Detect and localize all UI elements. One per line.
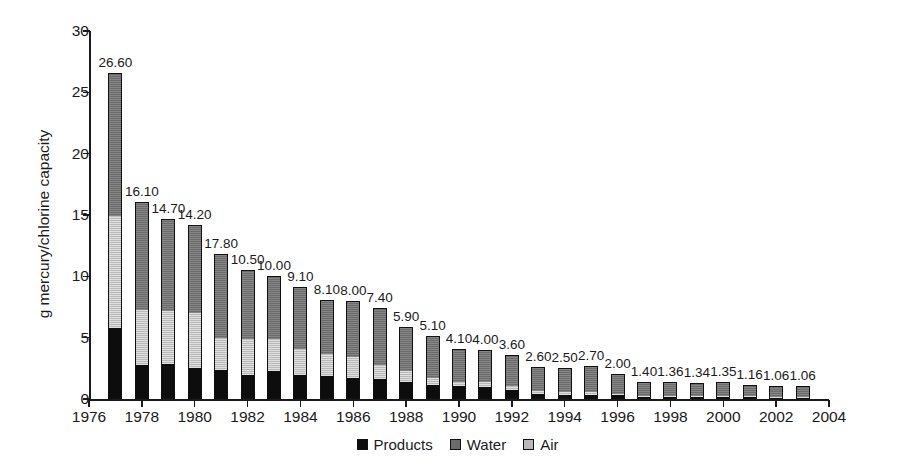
stacked-bar bbox=[531, 31, 545, 399]
bar-segment-air bbox=[531, 391, 545, 394]
bar-value-label: 2.70 bbox=[578, 349, 604, 363]
legend-swatch-products-icon bbox=[357, 439, 368, 450]
x-tick-label: 1978 bbox=[125, 409, 159, 425]
x-tick-mark bbox=[617, 400, 619, 407]
bar-value-label: 5.10 bbox=[419, 319, 445, 333]
y-axis-title: g mercury/chlorine capacity bbox=[35, 74, 53, 374]
bar-value-label: 1.40 bbox=[631, 365, 657, 379]
stacked-bar bbox=[293, 31, 307, 399]
legend-item-products: Products bbox=[357, 436, 433, 453]
bar-segment-products bbox=[426, 385, 440, 399]
bar-segment-products bbox=[346, 378, 360, 399]
bar-segment-air bbox=[373, 365, 387, 379]
x-tick-mark bbox=[511, 400, 513, 407]
legend-swatch-water-icon bbox=[450, 439, 461, 450]
x-tick-mark bbox=[88, 400, 90, 407]
bar-segment-air bbox=[558, 392, 572, 394]
stacked-bar bbox=[399, 31, 413, 399]
bar-segment-water bbox=[399, 327, 413, 371]
bar-value-label: 2.00 bbox=[604, 357, 630, 371]
bar-value-label: 17.80 bbox=[204, 237, 238, 251]
bar-segment-air bbox=[796, 397, 810, 398]
bar-segment-air bbox=[267, 339, 281, 372]
bar-segment-products bbox=[584, 395, 598, 399]
bar-segment-water bbox=[293, 287, 307, 348]
y-tick-label: 5 bbox=[53, 330, 89, 346]
bar-value-label: 26.60 bbox=[99, 56, 133, 70]
x-tick-label: 1994 bbox=[547, 409, 581, 425]
x-tick-mark bbox=[300, 400, 302, 407]
bar-segment-water bbox=[769, 386, 783, 397]
bar-segment-water bbox=[188, 225, 202, 313]
bar-segment-water bbox=[505, 355, 519, 386]
bar-segment-air bbox=[663, 396, 677, 397]
bar-value-label: 1.16 bbox=[737, 368, 763, 382]
x-tick-label: 1980 bbox=[177, 409, 211, 425]
bar-segment-air bbox=[399, 371, 413, 382]
bar-segment-water bbox=[108, 73, 122, 217]
bar-segment-water bbox=[267, 276, 281, 339]
chart-legend: Products Water Air bbox=[0, 436, 915, 453]
legend-item-air: Air bbox=[523, 436, 558, 453]
bar-value-label: 1.36 bbox=[657, 365, 683, 379]
bar-value-label: 2.60 bbox=[525, 350, 551, 364]
stacked-bar bbox=[743, 31, 757, 399]
bar-value-label: 1.35 bbox=[710, 365, 736, 379]
y-tick-label: 10 bbox=[53, 268, 89, 284]
bar-segment-products bbox=[241, 375, 255, 399]
bar-segment-air bbox=[637, 396, 651, 397]
bar-segment-water bbox=[558, 368, 572, 392]
stacked-bar bbox=[690, 31, 704, 399]
bar-segment-water bbox=[611, 374, 625, 394]
bar-segment-water bbox=[161, 219, 175, 311]
bar-segment-products bbox=[478, 387, 492, 399]
bar-value-label: 3.60 bbox=[499, 338, 525, 352]
stacked-bar bbox=[346, 31, 360, 399]
stacked-bar bbox=[558, 31, 572, 399]
y-tick-label: 30 bbox=[53, 23, 89, 39]
x-tick-mark bbox=[353, 400, 355, 407]
x-tick-mark bbox=[458, 400, 460, 407]
stacked-bar bbox=[267, 31, 281, 399]
stacked-bar bbox=[241, 31, 255, 399]
bar-segment-products bbox=[611, 395, 625, 399]
bar-segment-products bbox=[320, 376, 334, 399]
bar-value-label: 4.00 bbox=[472, 333, 498, 347]
bar-segment-water bbox=[373, 308, 387, 365]
bar-segment-air bbox=[346, 357, 360, 378]
bar-segment-water bbox=[796, 386, 810, 397]
x-tick-label: 1976 bbox=[72, 409, 106, 425]
bar-segment-air bbox=[690, 396, 704, 397]
bar-segment-air bbox=[584, 392, 598, 394]
stacked-bar bbox=[611, 31, 625, 399]
bar-segment-water bbox=[452, 349, 466, 383]
bar-value-label: 1.34 bbox=[684, 366, 710, 380]
bar-value-label: 8.00 bbox=[340, 284, 366, 298]
bar-segment-air bbox=[241, 339, 255, 375]
x-tick-mark bbox=[405, 400, 407, 407]
x-tick-mark bbox=[141, 400, 143, 407]
bar-segment-water bbox=[346, 301, 360, 357]
bar-segment-water bbox=[690, 383, 704, 396]
bar-segment-water bbox=[241, 270, 255, 339]
chart-plot-area: 051015202530 197619781980198219841986198… bbox=[0, 0, 915, 465]
bar-segment-water bbox=[584, 366, 598, 392]
bar-segment-air bbox=[135, 310, 149, 365]
bar-value-label: 8.10 bbox=[314, 283, 340, 297]
x-tick-label: 2000 bbox=[706, 409, 740, 425]
stacked-bar bbox=[584, 31, 598, 399]
x-tick-mark bbox=[194, 400, 196, 407]
bar-segment-water bbox=[637, 382, 651, 396]
bar-segment-products bbox=[161, 364, 175, 399]
bar-segment-products bbox=[188, 368, 202, 399]
stacked-bar bbox=[769, 31, 783, 399]
bar-segment-air bbox=[743, 396, 757, 397]
bar-segment-water bbox=[531, 367, 545, 391]
bar-segment-products bbox=[373, 379, 387, 399]
bar-segment-air bbox=[611, 394, 625, 395]
stacked-bar bbox=[426, 31, 440, 399]
y-tick-label: 15 bbox=[53, 207, 89, 223]
bar-segment-products bbox=[267, 371, 281, 399]
bar-segment-water bbox=[663, 382, 677, 396]
stacked-bar bbox=[716, 31, 730, 399]
